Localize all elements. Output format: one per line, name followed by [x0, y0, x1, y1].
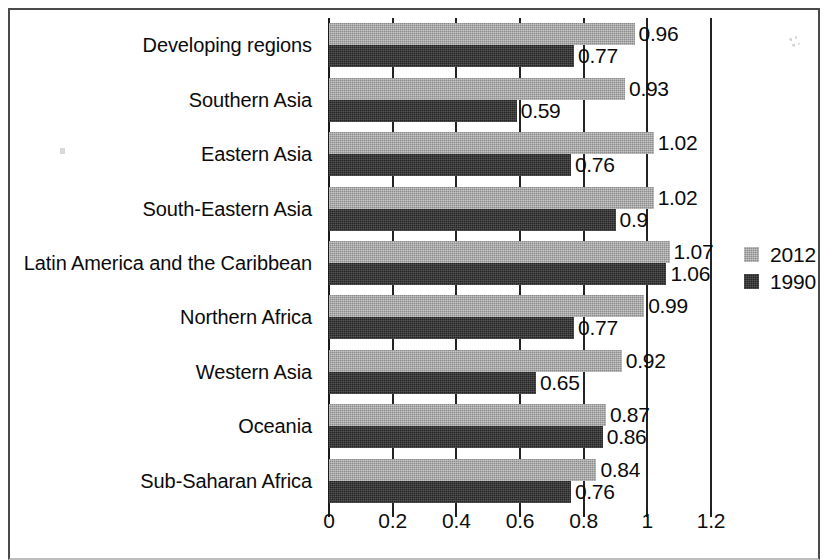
legend-item-2012[interactable]: 2012: [744, 242, 834, 267]
bar-1990-1: [329, 45, 574, 67]
chart-legend: 20121990: [744, 242, 834, 296]
bar-1990-7: [329, 372, 536, 394]
category-label: Sub-Saharan Africa: [140, 469, 312, 493]
bar-value-label: 0.96: [639, 22, 679, 46]
legend-swatch-icon: [744, 274, 759, 289]
bar-2012-3: [329, 132, 654, 154]
bar-value-label: 0.84: [600, 458, 640, 482]
bar-value-label: 0.99: [648, 294, 688, 318]
bar-2012-2: [329, 78, 625, 100]
category-label: Developing regions: [143, 33, 312, 57]
bar-value-label: 0.87: [610, 403, 650, 427]
bar-1990-8: [329, 426, 603, 448]
bar-1990-4: [329, 209, 616, 231]
bar-1990-5: [329, 263, 666, 285]
bar-2012-4: [329, 187, 654, 209]
category-label: Western Asia: [196, 360, 312, 384]
bar-2012-7: [329, 350, 622, 372]
bar-value-label: 0.77: [578, 44, 618, 68]
bar-value-label: 0.77: [578, 316, 618, 340]
bar-value-label: 0.92: [626, 349, 666, 373]
bar-value-label: 1.06: [670, 262, 710, 286]
category-label: Southern Asia: [189, 88, 312, 112]
category-label: Latin America and the Caribbean: [24, 251, 312, 275]
legend-label: 1990: [770, 269, 816, 294]
bar-value-label: 0.76: [575, 153, 615, 177]
bar-1990-2: [329, 100, 517, 122]
x-tick-label: 0.8: [569, 508, 598, 534]
category-label: Oceania: [238, 414, 312, 438]
category-label: South-Eastern Asia: [143, 197, 312, 221]
legend-item-1990[interactable]: 1990: [744, 269, 834, 294]
bar-value-label: 0.9: [620, 208, 648, 232]
category-label: Eastern Asia: [201, 142, 312, 166]
bar-value-label: 0.76: [575, 480, 615, 504]
bar-1990-6: [329, 317, 574, 339]
bar-1990-9: [329, 481, 571, 503]
category-axis-labels: Developing regionsSouthern AsiaEastern A…: [0, 18, 320, 508]
bar-value-label: 1.02: [658, 131, 698, 155]
x-tick-label: 0.4: [442, 508, 471, 534]
bar-2012-1: [329, 23, 635, 45]
x-tick-label: 1: [642, 508, 653, 534]
bar-value-label: 0.59: [521, 99, 561, 123]
bar-value-label: 0.93: [629, 77, 669, 101]
x-tick-label: 0.6: [506, 508, 535, 534]
bar-2012-5: [329, 241, 670, 263]
legend-label: 2012: [770, 242, 816, 267]
bar-value-label: 0.86: [607, 425, 647, 449]
legend-swatch-icon: [744, 247, 759, 262]
bar-value-label: 0.65: [540, 371, 580, 395]
bar-2012-8: [329, 404, 606, 426]
bar-2012-9: [329, 459, 596, 481]
bar-1990-3: [329, 154, 571, 176]
bar-value-label: 1.02: [658, 186, 698, 210]
plot-area: 0.960.770.930.591.020.761.020.91.071.060…: [329, 18, 711, 508]
x-tick-label: 0.2: [378, 508, 407, 534]
x-tick-label: 1.2: [697, 508, 726, 534]
bar-2012-6: [329, 295, 644, 317]
category-label: Northern Africa: [180, 305, 312, 329]
x-tick-label: 0: [323, 508, 334, 534]
bar-value-label: 1.07: [674, 240, 714, 264]
